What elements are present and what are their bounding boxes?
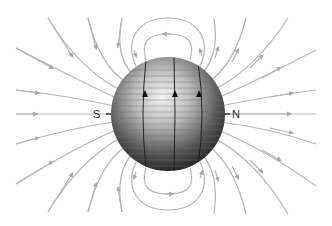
- planet-sphere: [108, 56, 228, 172]
- field-loop-bottom-inner: [144, 168, 191, 194]
- north-pole-label: N: [232, 108, 240, 120]
- field-loop-top-inner: [144, 34, 191, 60]
- magnetic-field-diagram: S N: [0, 0, 332, 226]
- south-pole-label: S: [93, 108, 100, 120]
